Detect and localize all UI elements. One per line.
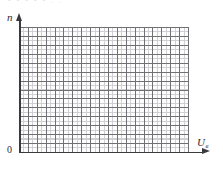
- graph-figure: - - - - - . . n Uв 0: [0, 0, 223, 170]
- plot-grid: [19, 27, 188, 152]
- y-axis-arrow-icon: [16, 13, 22, 21]
- origin-label: 0: [7, 144, 12, 155]
- grid-border-top: [19, 27, 189, 28]
- y-axis-label: n: [7, 11, 13, 23]
- x-axis-line: [19, 152, 203, 154]
- grid-border-right: [188, 27, 189, 153]
- x-axis-label-base: U: [197, 136, 205, 148]
- y-axis-line: [19, 20, 21, 153]
- clipped-header-text: - - - - - . .: [8, 0, 138, 6]
- x-axis-label-subscript: в: [205, 142, 208, 150]
- x-axis-label: Uв: [197, 136, 209, 150]
